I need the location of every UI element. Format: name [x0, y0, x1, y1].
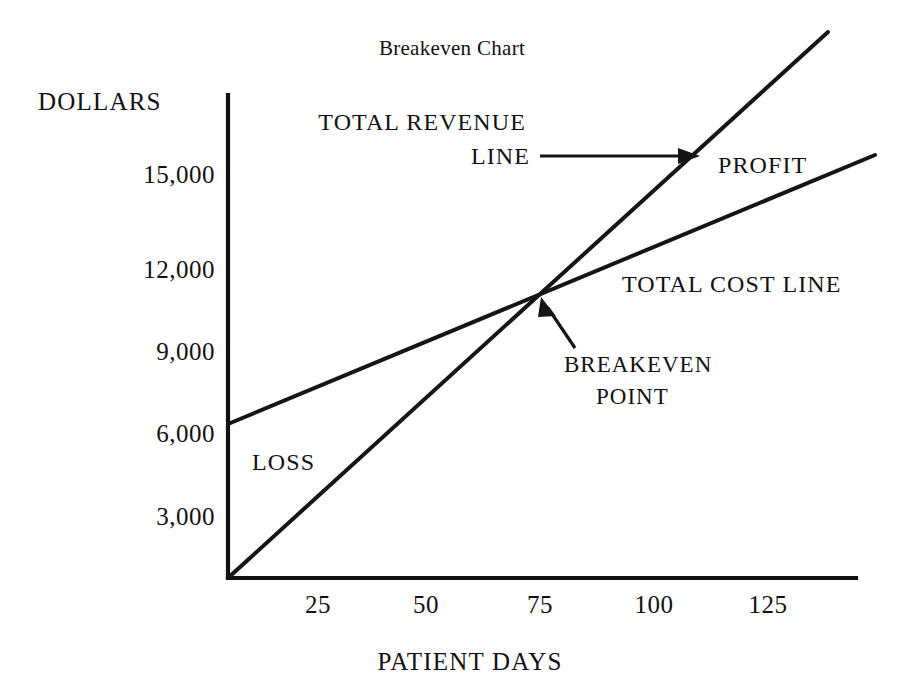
x-tick-label-75: 75 [527, 591, 553, 618]
breakeven-chart-page: Breakeven Chart DOLLARS PATIENT DAYS 15,… [0, 0, 904, 700]
x-tick-label-25: 25 [305, 591, 331, 618]
x-tick-label-100: 100 [635, 591, 674, 618]
y-axis-title: DOLLARS [38, 88, 162, 115]
y-tick-label-15000: 15,000 [143, 161, 215, 188]
y-tick-label-9000: 9,000 [156, 338, 215, 365]
chart-title: Breakeven Chart [379, 36, 525, 60]
x-tick-label-50: 50 [413, 591, 439, 618]
x-axis-title: PATIENT DAYS [377, 648, 562, 675]
x-tick-label-125: 125 [749, 591, 788, 618]
breakeven-chart-figure: Breakeven Chart DOLLARS PATIENT DAYS 15,… [0, 0, 904, 700]
total-revenue-label-line1: TOTAL REVENUE [318, 109, 526, 135]
total-revenue-label-line2: LINE [471, 143, 530, 169]
profit-region-label: PROFIT [718, 152, 807, 178]
breakeven-label-line1: BREAKEVEN [564, 352, 712, 377]
y-tick-label-12000: 12,000 [143, 256, 215, 283]
breakeven-arrow-head [538, 297, 556, 317]
y-tick-label-3000: 3,000 [156, 503, 215, 530]
breakeven-label-line2: POINT [596, 384, 669, 409]
total-cost-label: TOTAL COST LINE [622, 271, 841, 297]
y-tick-label-6000: 6,000 [156, 420, 215, 447]
loss-region-label: LOSS [252, 449, 315, 475]
